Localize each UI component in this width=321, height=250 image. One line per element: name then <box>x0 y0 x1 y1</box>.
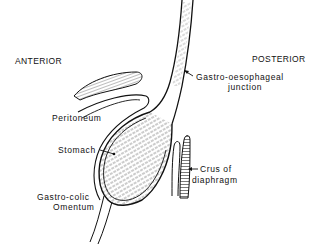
ge-junction-label-line1: Gastro-oesophageal <box>196 72 284 82</box>
crus-label-line2: diaphragm <box>192 175 238 185</box>
oesophagus <box>150 0 193 124</box>
posterior-label: POSTERIOR <box>252 54 306 64</box>
crus-of-diaphragm <box>172 136 190 199</box>
omentum-label-line1: Gastro-colic <box>37 192 90 202</box>
stomach <box>99 112 172 205</box>
crus-label-line1: Crus of <box>200 164 232 174</box>
stomach-label: Stomach <box>58 145 96 155</box>
anterior-label: ANTERIOR <box>15 56 62 66</box>
omentum-label-line2: Omentum <box>53 202 95 212</box>
peritoneum-label: Peritoneum <box>52 113 101 123</box>
ge-junction-label-line2: junction <box>228 82 262 92</box>
stomach-anatomy-diagram: ANTERIOR POSTERIOR Gastro-oesophageal ju… <box>0 0 321 250</box>
diagram-drawing <box>0 0 321 250</box>
